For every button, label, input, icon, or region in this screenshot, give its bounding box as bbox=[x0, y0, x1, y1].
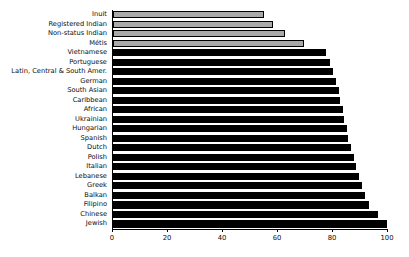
bar-row bbox=[113, 48, 387, 58]
bar-row bbox=[113, 29, 387, 39]
bar-row bbox=[113, 58, 387, 68]
x-axis-tick-label: 40 bbox=[218, 234, 227, 242]
category-label: Non-status Indian bbox=[0, 29, 109, 39]
x-axis-tick-label: 0 bbox=[110, 234, 114, 242]
x-axis-tick bbox=[167, 229, 168, 232]
bar bbox=[113, 87, 339, 94]
bar bbox=[113, 106, 343, 113]
bar bbox=[113, 173, 359, 180]
bar bbox=[113, 40, 304, 47]
category-label: Dutch bbox=[0, 143, 109, 153]
x-axis-tick bbox=[387, 229, 388, 232]
category-label: Caribbean bbox=[0, 96, 109, 106]
bar-row bbox=[113, 39, 387, 49]
x-axis-tick bbox=[332, 229, 333, 232]
bar bbox=[113, 125, 347, 132]
bar-row bbox=[113, 67, 387, 77]
bar bbox=[113, 21, 273, 28]
plot-area bbox=[112, 10, 387, 229]
category-label: Spanish bbox=[0, 134, 109, 144]
bar bbox=[113, 220, 387, 227]
bar-row bbox=[113, 210, 387, 220]
bar bbox=[113, 97, 340, 104]
category-label: Vietnamese bbox=[0, 48, 109, 58]
category-axis-labels: InuitRegistered IndianNon-status IndianM… bbox=[0, 10, 109, 229]
x-axis-tick bbox=[222, 229, 223, 232]
bar bbox=[113, 135, 348, 142]
bar-row bbox=[113, 153, 387, 163]
x-axis-tick-label: 20 bbox=[163, 234, 172, 242]
bar bbox=[113, 68, 333, 75]
bar bbox=[113, 192, 365, 199]
bar-row bbox=[113, 162, 387, 172]
bar bbox=[113, 211, 378, 218]
category-label: Greek bbox=[0, 181, 109, 191]
bar bbox=[113, 116, 344, 123]
bar-row bbox=[113, 200, 387, 210]
bar bbox=[113, 78, 336, 85]
category-label: Italian bbox=[0, 162, 109, 172]
category-label: Chinese bbox=[0, 210, 109, 220]
bar-row bbox=[113, 124, 387, 134]
category-label: Filipino bbox=[0, 200, 109, 210]
x-axis-tick-label: 100 bbox=[381, 234, 394, 242]
category-label: Jewish bbox=[0, 219, 109, 229]
x-axis-line bbox=[112, 229, 387, 230]
bar bbox=[113, 154, 354, 161]
x-axis-tick bbox=[277, 229, 278, 232]
category-label: Ukrainian bbox=[0, 115, 109, 125]
bar bbox=[113, 11, 264, 18]
category-label: Registered Indian bbox=[0, 20, 109, 30]
category-label: Inuit bbox=[0, 10, 109, 20]
bar-row bbox=[113, 172, 387, 182]
bar bbox=[113, 163, 356, 170]
bar bbox=[113, 59, 330, 66]
category-label: Métis bbox=[0, 39, 109, 49]
x-axis-tick-label: 80 bbox=[328, 234, 337, 242]
category-label: Balkan bbox=[0, 191, 109, 201]
bar-row bbox=[113, 134, 387, 144]
bar-row bbox=[113, 143, 387, 153]
bar-row bbox=[113, 86, 387, 96]
bar bbox=[113, 182, 362, 189]
bar-row bbox=[113, 20, 387, 30]
bar-chart: InuitRegistered IndianNon-status IndianM… bbox=[0, 0, 409, 257]
x-axis-tick-label: 60 bbox=[273, 234, 282, 242]
category-label: South Asian bbox=[0, 86, 109, 96]
bar bbox=[113, 144, 351, 151]
bar-row bbox=[113, 191, 387, 201]
bar-row bbox=[113, 77, 387, 87]
bar-row bbox=[113, 115, 387, 125]
bar bbox=[113, 201, 369, 208]
category-label: Latin, Central & South Amer. bbox=[0, 67, 109, 77]
bar bbox=[113, 49, 326, 56]
bar bbox=[113, 30, 285, 37]
bar-row bbox=[113, 181, 387, 191]
bar-row bbox=[113, 10, 387, 20]
bar-row bbox=[113, 105, 387, 115]
bar-row bbox=[113, 219, 387, 229]
category-label: German bbox=[0, 77, 109, 87]
category-label: Lebanese bbox=[0, 172, 109, 182]
bar-row bbox=[113, 96, 387, 106]
category-label: Polish bbox=[0, 153, 109, 163]
category-label: Portuguese bbox=[0, 58, 109, 68]
category-label: Hungarian bbox=[0, 124, 109, 134]
x-axis-tick bbox=[112, 229, 113, 232]
category-label: African bbox=[0, 105, 109, 115]
